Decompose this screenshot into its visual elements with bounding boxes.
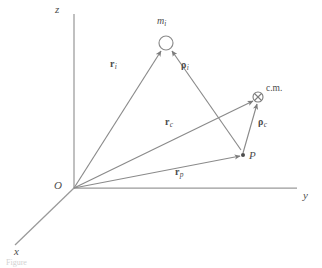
axis-label-y: y xyxy=(303,190,308,201)
figure-caption: Figure xyxy=(6,258,27,267)
origin-label: O xyxy=(54,180,62,191)
center-of-mass-marker-icon xyxy=(253,92,263,102)
axis-x-line xyxy=(15,188,74,245)
vector-label-rho-i: ρi xyxy=(181,60,189,72)
point-p-label: P xyxy=(249,150,256,161)
vector-label-r-c: rc xyxy=(165,117,173,129)
axis-label-x: x xyxy=(14,246,19,257)
mass-element-label: mi xyxy=(157,16,166,28)
vector-label-r-i: ri xyxy=(110,59,117,71)
vector-label-rho-c: ρc xyxy=(258,117,267,129)
center-of-mass-label: c.m. xyxy=(266,84,282,94)
point-p-marker-icon xyxy=(241,153,245,157)
axis-label-z: z xyxy=(55,4,59,15)
vector-rho-c-arrow xyxy=(243,104,257,153)
vector-r-p-arrow xyxy=(74,156,240,188)
vector-label-r-p: rp xyxy=(175,167,184,179)
axes-group xyxy=(15,14,297,245)
mass-element-marker-icon xyxy=(159,36,173,50)
vector-diagram-canvas xyxy=(0,0,322,268)
vector-r-c-arrow xyxy=(74,101,253,188)
figure-root: z y x O mi P c.m. ri ρi rc ρc rp Figure xyxy=(0,0,322,268)
